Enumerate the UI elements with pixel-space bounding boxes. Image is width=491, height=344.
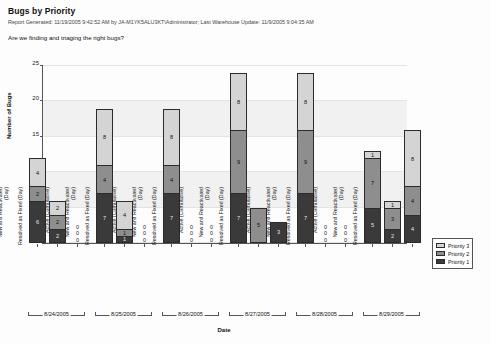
report-page: Bugs by Priority Report Generated: 11/19…: [0, 0, 491, 344]
report-question: Are we finding and triaging the right bu…: [8, 34, 408, 41]
bar-segment[interactable]: 2: [384, 229, 401, 243]
y-axis-title: Number of Bugs: [6, 92, 12, 139]
bar-value-label: 0: [190, 237, 193, 243]
x-tick-mark: [104, 244, 105, 247]
x-tick-mark: [77, 244, 78, 247]
bar-segment[interactable]: 9: [230, 130, 247, 194]
legend-swatch-icon: [436, 251, 445, 256]
legend-item-label: Priority 3: [448, 243, 469, 249]
bar-segment[interactable]: 5: [364, 208, 381, 243]
bar-segment[interactable]: 8: [297, 73, 314, 130]
y-tick-label: 15: [32, 131, 39, 137]
x-axis-title: Date: [217, 327, 230, 333]
legend-item: Priority 2: [436, 250, 469, 257]
bar-segment[interactable]: 4: [404, 186, 421, 214]
x-tick-mark: [258, 244, 259, 247]
x-category-label: Active (Cumulative): [178, 187, 184, 249]
legend-swatch-icon: [436, 259, 445, 264]
x-tick-mark: [412, 244, 413, 247]
bar-value-label: 0: [324, 237, 327, 243]
group-rule-cap: [352, 312, 353, 316]
bar-value-label: 0: [210, 237, 213, 243]
bar-value-label: 0: [344, 237, 347, 243]
bar-segment[interactable]: 7: [364, 158, 381, 208]
bar-value-label: 0: [143, 237, 146, 243]
x-category-label: New and Reactivated (Day): [64, 187, 76, 249]
x-category-label: New and Reactivated (Day): [198, 187, 210, 249]
x-category-label: Resolved as Fixed (Day): [285, 187, 291, 249]
x-category-label: Resolved as Fixed (Day): [352, 187, 358, 249]
bar-segment[interactable]: 4: [404, 215, 421, 243]
x-category-label: New and Reactivated (Day): [332, 187, 344, 249]
bar-segment[interactable]: 9: [297, 130, 314, 194]
x-tick-mark: [345, 244, 346, 247]
x-category-label: New and Reactivated (Day): [131, 187, 143, 249]
bar-stack[interactable]: 231: [384, 201, 401, 243]
y-tick-mark: [40, 136, 43, 137]
gridline: [43, 100, 407, 101]
x-tick-mark: [238, 244, 239, 247]
group-rule-cap: [363, 312, 364, 316]
y-tick-label: 20: [32, 95, 39, 101]
page-title: Bugs by Priority: [8, 6, 408, 16]
x-tick-mark: [37, 244, 38, 247]
bar-segment[interactable]: 4: [29, 158, 46, 186]
group-rule-cap: [229, 312, 230, 316]
legend-item-label: Priority 1: [448, 259, 469, 265]
legend-item-label: Priority 2: [448, 251, 469, 257]
x-category-label: Resolved as Fixed (Day): [84, 187, 90, 249]
x-tick-mark: [325, 244, 326, 247]
bar-segment[interactable]: 8: [230, 73, 247, 130]
group-rule-cap: [162, 312, 163, 316]
legend-item: Priority 3: [436, 242, 469, 249]
x-category-label: Resolved as Fixed (Day): [218, 187, 224, 249]
x-category-label: Active (Cumulative): [312, 187, 318, 249]
x-tick-mark: [305, 244, 306, 247]
x-category-label: New and Reactivated (Day): [0, 187, 9, 249]
x-tick-mark: [144, 244, 145, 247]
x-tick-mark: [191, 244, 192, 247]
y-tick-mark: [40, 100, 43, 101]
bar-value-label: 0: [76, 237, 79, 243]
chart-area: Number of Bugs 0510152025624222000748114…: [0, 55, 491, 344]
group-rule-cap: [151, 312, 152, 316]
legend: Priority 3 Priority 2 Priority 1: [432, 238, 473, 269]
x-category-label: New and Reactivated (Day): [265, 187, 277, 249]
bar-segment[interactable]: 8: [96, 109, 113, 166]
group-rule-cap: [95, 312, 96, 316]
x-group-label: 8/26/2005: [176, 311, 205, 317]
gridline: [43, 65, 407, 66]
group-rule-cap: [296, 312, 297, 316]
x-tick-mark: [278, 244, 279, 247]
report-header: Bugs by Priority Report Generated: 11/19…: [8, 6, 408, 41]
x-group-label: 8/28/2005: [310, 311, 339, 317]
x-tick-mark: [57, 244, 58, 247]
bar-segment[interactable]: 1: [384, 201, 401, 208]
bar-stack[interactable]: 571: [364, 151, 381, 243]
x-tick-mark: [171, 244, 172, 247]
x-category-label: Active (Cumulative): [44, 187, 50, 249]
y-tick-mark: [40, 65, 43, 66]
bar-segment[interactable]: 3: [384, 208, 401, 229]
group-rule-cap: [28, 312, 29, 316]
bar-segment[interactable]: 1: [364, 151, 381, 158]
bar-segment[interactable]: 8: [404, 130, 421, 187]
group-rule-cap: [419, 312, 420, 316]
x-group-label: 8/25/2005: [109, 311, 138, 317]
x-category-label: Active (Cumulative): [245, 187, 251, 249]
bar-segment[interactable]: 8: [163, 109, 180, 166]
group-rule-cap: [285, 312, 286, 316]
group-rule-cap: [218, 312, 219, 316]
x-tick-mark: [372, 244, 373, 247]
x-group-label: 8/24/2005: [42, 311, 71, 317]
x-tick-mark: [211, 244, 212, 247]
legend-item: Priority 1: [436, 258, 469, 265]
bar-stack[interactable]: 448: [404, 130, 421, 243]
x-group-label: 8/29/2005: [377, 311, 406, 317]
group-rule-cap: [84, 312, 85, 316]
legend-swatch-icon: [436, 243, 445, 248]
x-tick-mark: [124, 244, 125, 247]
x-category-label: Active (Cumulative): [111, 187, 117, 249]
y-tick-label: 25: [32, 60, 39, 66]
x-group-label: 8/27/2005: [243, 311, 272, 317]
